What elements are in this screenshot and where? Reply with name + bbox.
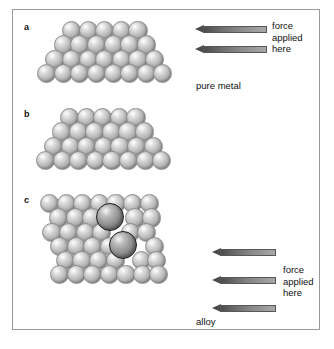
arrow-shaft: [220, 277, 276, 284]
force-label-c: force applied here: [283, 264, 314, 299]
force-label-line-2: applied: [283, 276, 314, 288]
force-arrow-c-1: [212, 248, 276, 257]
force-label-line-2: applied: [272, 32, 303, 44]
force-label-line-1: force: [272, 20, 303, 32]
caption-alloy: alloy: [196, 316, 216, 327]
force-label-line-3: here: [283, 287, 314, 299]
force-label-a: force applied here: [272, 20, 303, 55]
alloy-atom: [96, 203, 124, 231]
force-arrow-a-2: [195, 45, 267, 54]
force-arrow-a-1: [195, 25, 267, 34]
panel-label-b: b: [24, 110, 30, 119]
arrow-shaft: [220, 249, 276, 256]
figure-root: a force applied here pure metal b c forc…: [0, 0, 334, 349]
force-arrow-c-3: [212, 304, 276, 313]
arrow-shaft: [220, 305, 276, 312]
force-arrow-c-2: [212, 276, 276, 285]
panel-label-a: a: [24, 23, 29, 32]
force-label-line-3: here: [272, 43, 303, 55]
arrow-shaft: [203, 46, 267, 53]
panel-label-c: c: [24, 196, 29, 205]
force-label-line-1: force: [283, 264, 314, 276]
arrow-shaft: [203, 26, 267, 33]
caption-pure-metal: pure metal: [196, 80, 241, 91]
